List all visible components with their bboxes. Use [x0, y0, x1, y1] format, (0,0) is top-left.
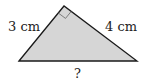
right-side-label: 4 cm [105, 20, 137, 33]
base-label: ? [74, 67, 81, 80]
triangle-figure [0, 0, 145, 81]
triangle-diagram: 3 cm 4 cm ? [0, 0, 145, 81]
left-side-label: 3 cm [8, 20, 40, 33]
